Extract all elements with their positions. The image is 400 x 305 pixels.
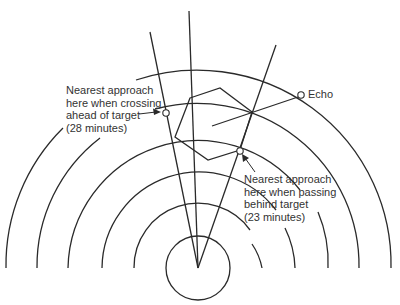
- passing-behind-annotation: Nearest approach here when passing behin…: [244, 173, 336, 223]
- radar-diagram: [0, 0, 400, 305]
- echo-label: Echo: [308, 88, 333, 101]
- range-ring-2-end: [252, 244, 262, 268]
- annotation-line: behind target: [244, 198, 336, 211]
- passing-behind-marker: [237, 148, 243, 154]
- echo-marker: [298, 92, 304, 98]
- passing-arrow-line: [245, 158, 255, 172]
- echo-track-line: [212, 97, 298, 126]
- annotation-line: here when passing: [244, 186, 336, 199]
- annotation-line: here when crossing: [66, 97, 161, 110]
- annotation-line: (23 minutes): [244, 211, 336, 224]
- range-ring-6-left: [6, 128, 63, 268]
- annotation-line: Nearest approach: [66, 84, 161, 97]
- crossing-ahead-annotation: Nearest approach here when crossing ahea…: [66, 84, 161, 134]
- annotation-line: ahead of target: [66, 109, 161, 122]
- annotation-line: Nearest approach: [244, 173, 336, 186]
- crossing-ahead-marker: [163, 110, 169, 116]
- range-ring-6: [136, 70, 391, 268]
- bearing-line-right: [198, 45, 276, 268]
- range-ring-3-end: [285, 228, 295, 268]
- annotation-line: (28 minutes): [66, 122, 161, 135]
- passing-arrow-head: [242, 154, 249, 162]
- range-ring-5-left: [37, 138, 100, 268]
